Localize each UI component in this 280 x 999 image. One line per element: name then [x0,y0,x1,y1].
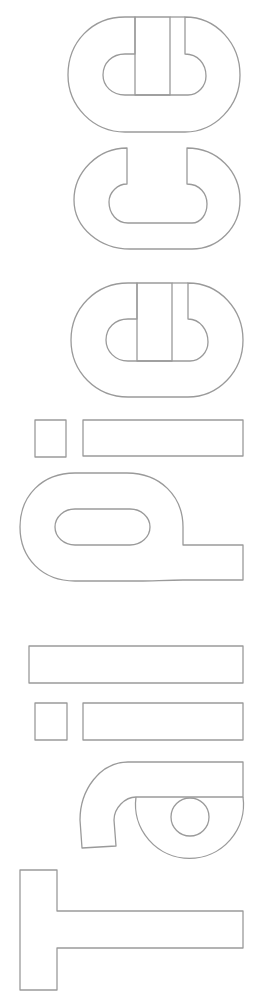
letter-i-upper [35,420,243,457]
letter-c [74,148,240,249]
letter-p [20,473,243,581]
tailpiece-outline-lettering [0,0,280,999]
letter-a [80,762,244,858]
letter-i-lower [35,703,243,740]
letter-e-top [68,17,240,132]
letter-l [29,646,243,683]
letter-e-middle [71,283,243,397]
letter-t [20,870,243,990]
